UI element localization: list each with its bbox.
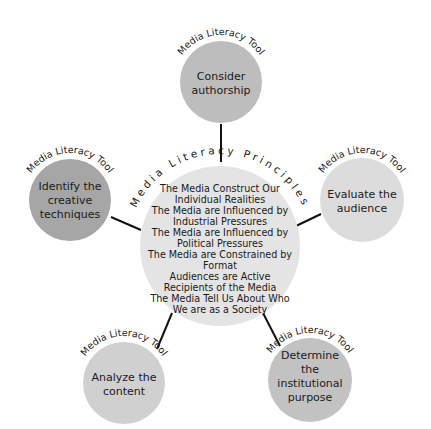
tool-label-line: techniques <box>40 208 101 221</box>
tool-label-line: Analyze the <box>92 371 157 384</box>
connector-right <box>296 214 321 226</box>
tool-node-evaluate-audience: Media Literacy Tool Evaluate the audienc… <box>316 144 408 242</box>
tool-label-line: institutional <box>277 377 342 390</box>
tool-label-line: Consider <box>197 70 246 83</box>
principle-line: The Media Construct Our <box>159 183 280 194</box>
principle-line: Audiences are Active <box>170 271 271 282</box>
principle-line: Individual Realities <box>175 194 265 205</box>
tool-label-line: creative <box>48 194 93 207</box>
principle-line: The Media are Constrained by <box>147 249 292 260</box>
tool-label-line: purpose <box>288 391 333 404</box>
tool-label-line: content <box>103 385 146 398</box>
tool-node-identify-creative-techniques: Media Literacy Tool Identify the creativ… <box>24 144 116 241</box>
media-literacy-diagram: Media Literacy Principles The Media Cons… <box>0 0 431 429</box>
principle-line: We are as a Society <box>173 304 268 315</box>
principle-line: Format <box>203 260 237 271</box>
tool-label-line: Identify the <box>38 180 101 193</box>
tool-label-line: Determine <box>281 349 339 362</box>
tool-label-line: Evaluate the <box>327 188 397 201</box>
tool-node-determine-institutional-purpose: Media Literacy Tool Determine the instit… <box>264 324 356 422</box>
tool-label-line: authorship <box>192 84 251 97</box>
principle-line: Recipients of the Media <box>164 282 277 293</box>
principle-line: Industrial Pressures <box>173 216 267 227</box>
tool-label-line: audience <box>337 202 388 215</box>
tool-node-consider-authorship: Media Literacy Tool Consider authorship <box>175 26 267 123</box>
principles-node: Media Literacy Principles The Media Cons… <box>127 144 313 326</box>
connector-left <box>111 217 141 230</box>
principle-line: Political Pressures <box>177 238 263 249</box>
principle-line: The Media Tell Us About Who <box>149 293 289 304</box>
principle-line: The Media are Influenced by <box>151 227 289 238</box>
tool-node-analyze-content: Media Literacy Tool Analyze the content <box>78 327 170 424</box>
tool-label-line: the <box>301 363 319 376</box>
principle-line: The Media are Influenced by <box>151 205 289 216</box>
